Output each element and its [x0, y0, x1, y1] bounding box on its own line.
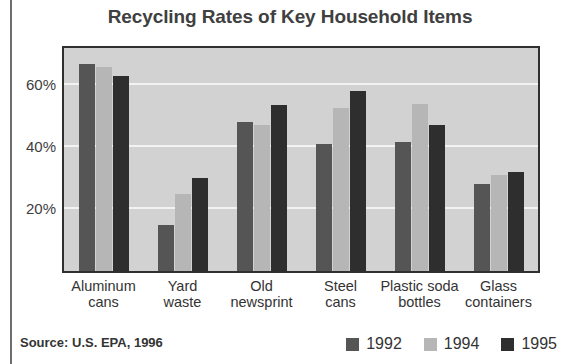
legend-label: 1995: [521, 335, 557, 353]
chart-title: Recycling Rates of Key Household Items: [20, 6, 560, 28]
x-label-line1: Glass: [480, 278, 517, 294]
chart-legend: 199219941995: [346, 335, 557, 353]
bar: [113, 76, 129, 271]
bar: [412, 104, 428, 271]
y-axis-tick-label: 40%: [8, 138, 56, 155]
bar-group: [222, 48, 301, 271]
bar: [333, 108, 349, 271]
x-label-line1: Aluminum: [71, 278, 135, 294]
bar: [254, 125, 270, 271]
bar: [508, 172, 524, 271]
bar: [491, 175, 507, 271]
bar: [271, 105, 287, 271]
bar-group: [301, 48, 380, 271]
bar-group: [143, 48, 222, 271]
x-label-line2: containers: [447, 294, 550, 310]
x-label-line1: Steel: [324, 278, 357, 294]
plot-area: [62, 46, 540, 273]
y-axis-tick-label: 20%: [8, 200, 56, 217]
legend-swatch-icon: [346, 338, 359, 351]
legend-item: 1994: [424, 335, 480, 353]
x-label-line1: Yard: [168, 278, 198, 294]
y-axis-tick-label: 60%: [8, 76, 56, 93]
legend-swatch-icon: [424, 338, 437, 351]
bar-group: [380, 48, 459, 271]
plot-inner: [64, 48, 538, 271]
legend-label: 1992: [366, 335, 402, 353]
bar: [96, 67, 112, 271]
legend-swatch-icon: [501, 338, 514, 351]
legend-label: 1994: [444, 335, 480, 353]
bar: [474, 184, 490, 271]
bar: [429, 125, 445, 271]
bar-group: [459, 48, 538, 271]
bar: [350, 91, 366, 271]
bar-group: [64, 48, 143, 271]
legend-item: 1992: [346, 335, 402, 353]
legend-item: 1995: [501, 335, 557, 353]
x-label-line1: Old: [250, 278, 273, 294]
bar: [395, 142, 411, 271]
bar: [192, 178, 208, 271]
bar: [158, 225, 174, 271]
bar: [175, 194, 191, 271]
source-note: Source: U.S. EPA, 1996: [20, 335, 163, 350]
bar: [316, 144, 332, 271]
recycling-rates-chart: Recycling Rates of Key Household Items 2…: [0, 0, 567, 364]
bar: [237, 122, 253, 271]
bar: [79, 64, 95, 272]
x-axis-category-label: Glasscontainers: [447, 278, 550, 310]
